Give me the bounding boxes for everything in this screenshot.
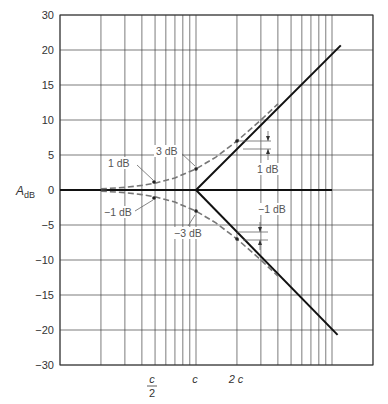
y-tick-labels: 3020151050−5−10−15−20−30	[35, 9, 54, 371]
annotation-minus-3db: −3 dB	[174, 227, 202, 239]
x-label-c-half-denominator: 2	[149, 387, 155, 399]
annotation-right-minus-1db: −1 dB	[258, 203, 286, 215]
dashed-curve	[101, 104, 278, 189]
y-tick-label: 0	[48, 184, 54, 196]
y-tick-label: 10	[42, 114, 54, 126]
annotation-minus-1db: −1 dB	[104, 206, 132, 218]
y-tick-label: −15	[35, 289, 54, 301]
x-label-c-half-numerator: c	[149, 373, 155, 385]
y-tick-label: −20	[35, 324, 54, 336]
x-label-c: c	[192, 373, 198, 385]
x-label-2c: 2 c	[228, 373, 244, 385]
y-tick-label: 20	[42, 44, 54, 56]
y-tick-label: 30	[42, 9, 54, 21]
y-axis-label: AdB	[15, 184, 35, 200]
y-tick-label: −10	[35, 254, 54, 266]
y-tick-label: −5	[41, 219, 54, 231]
y-tick-label: 15	[42, 79, 54, 91]
y-tick-label: −30	[35, 359, 54, 371]
y-tick-label: 5	[48, 149, 54, 161]
bode-magnitude-chart: 3020151050−5−10−15−20−30 AdB c 2 c 2 c	[0, 0, 388, 404]
series	[60, 45, 341, 335]
annotation-1db: 1 dB	[108, 157, 130, 169]
annotation-right-1db: 1 dB	[257, 163, 279, 175]
annotation-3db: 3 dB	[156, 145, 178, 157]
